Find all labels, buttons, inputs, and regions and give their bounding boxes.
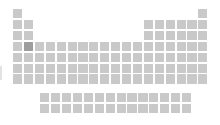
fblock-cell[interactable]	[62, 93, 71, 102]
element-cell[interactable]	[155, 64, 164, 73]
element-cell[interactable]	[144, 64, 153, 73]
element-cell[interactable]	[35, 74, 44, 83]
fblock-cell[interactable]	[117, 104, 126, 113]
element-cell[interactable]	[89, 64, 98, 73]
element-cell[interactable]	[24, 74, 33, 83]
element-cell[interactable]	[57, 53, 66, 62]
element-cell[interactable]	[13, 64, 22, 73]
element-cell[interactable]	[198, 74, 207, 83]
element-cell[interactable]	[177, 20, 186, 29]
element-cell[interactable]	[24, 64, 33, 73]
element-cell[interactable]	[198, 31, 207, 40]
element-cell[interactable]	[13, 53, 22, 62]
element-cell[interactable]	[68, 74, 77, 83]
fblock-cell[interactable]	[171, 104, 180, 113]
fblock-cell[interactable]	[106, 93, 115, 102]
element-cell[interactable]	[122, 53, 131, 62]
element-cell[interactable]	[177, 74, 186, 83]
element-cell[interactable]	[187, 53, 196, 62]
element-cell[interactable]	[155, 42, 164, 51]
element-cell[interactable]	[35, 42, 44, 51]
element-cell[interactable]	[13, 74, 22, 83]
element-cell[interactable]	[198, 64, 207, 73]
element-cell[interactable]	[144, 74, 153, 83]
fblock-cell[interactable]	[160, 104, 169, 113]
element-cell[interactable]	[46, 74, 55, 83]
element-cell[interactable]	[13, 42, 22, 51]
element-cell[interactable]	[111, 42, 120, 51]
element-cell[interactable]	[187, 42, 196, 51]
element-cell[interactable]	[166, 42, 175, 51]
element-cell[interactable]	[100, 64, 109, 73]
fblock-cell[interactable]	[171, 93, 180, 102]
element-cell[interactable]	[166, 20, 175, 29]
element-cell[interactable]	[155, 53, 164, 62]
element-cell[interactable]	[24, 53, 33, 62]
element-cell[interactable]	[46, 53, 55, 62]
fblock-cell[interactable]	[138, 93, 147, 102]
element-cell[interactable]	[68, 64, 77, 73]
element-cell[interactable]	[24, 31, 33, 40]
fblock-cell[interactable]	[51, 104, 60, 113]
element-cell[interactable]	[57, 64, 66, 73]
fblock-cell[interactable]	[127, 104, 136, 113]
element-cell[interactable]	[68, 53, 77, 62]
element-cell[interactable]	[46, 42, 55, 51]
element-cell[interactable]	[155, 74, 164, 83]
fblock-cell[interactable]	[40, 93, 49, 102]
element-cell[interactable]	[13, 9, 22, 18]
element-cell[interactable]	[144, 53, 153, 62]
element-cell[interactable]	[57, 74, 66, 83]
fblock-cell[interactable]	[95, 93, 104, 102]
element-cell[interactable]	[144, 31, 153, 40]
element-cell[interactable]	[187, 64, 196, 73]
element-cell[interactable]	[68, 42, 77, 51]
element-cell[interactable]	[166, 74, 175, 83]
element-cell[interactable]	[177, 31, 186, 40]
fblock-cell[interactable]	[84, 104, 93, 113]
element-cell[interactable]	[46, 64, 55, 73]
element-cell[interactable]	[166, 31, 175, 40]
element-cell[interactable]	[100, 74, 109, 83]
element-cell[interactable]	[133, 42, 142, 51]
fblock-cell[interactable]	[149, 93, 158, 102]
element-cell[interactable]	[187, 31, 196, 40]
element-cell[interactable]	[35, 53, 44, 62]
fblock-cell[interactable]	[182, 93, 191, 102]
element-cell[interactable]	[78, 74, 87, 83]
fblock-cell[interactable]	[138, 104, 147, 113]
fblock-cell[interactable]	[73, 93, 82, 102]
fblock-cell[interactable]	[62, 104, 71, 113]
fblock-cell[interactable]	[127, 93, 136, 102]
element-cell[interactable]	[78, 64, 87, 73]
fblock-cell[interactable]	[95, 104, 104, 113]
element-cell[interactable]	[122, 74, 131, 83]
element-cell[interactable]	[198, 20, 207, 29]
element-cell[interactable]	[187, 20, 196, 29]
fblock-cell[interactable]	[160, 93, 169, 102]
element-cell[interactable]	[89, 42, 98, 51]
element-cell[interactable]	[155, 20, 164, 29]
element-cell[interactable]	[144, 20, 153, 29]
element-cell[interactable]	[166, 53, 175, 62]
fblock-cell[interactable]	[149, 104, 158, 113]
element-cell[interactable]	[133, 64, 142, 73]
element-cell[interactable]	[13, 20, 22, 29]
element-cell[interactable]	[177, 53, 186, 62]
element-cell[interactable]	[198, 9, 207, 18]
element-cell[interactable]	[133, 53, 142, 62]
element-cell[interactable]	[89, 74, 98, 83]
element-cell[interactable]	[100, 53, 109, 62]
element-cell-highlighted[interactable]	[24, 42, 33, 51]
fblock-cell[interactable]	[73, 104, 82, 113]
element-cell[interactable]	[111, 74, 120, 83]
fblock-cell[interactable]	[117, 93, 126, 102]
element-cell[interactable]	[133, 74, 142, 83]
element-cell[interactable]	[35, 64, 44, 73]
element-cell[interactable]	[177, 64, 186, 73]
element-cell[interactable]	[144, 42, 153, 51]
element-cell[interactable]	[13, 31, 22, 40]
element-cell[interactable]	[78, 53, 87, 62]
element-cell[interactable]	[89, 53, 98, 62]
element-cell[interactable]	[111, 53, 120, 62]
